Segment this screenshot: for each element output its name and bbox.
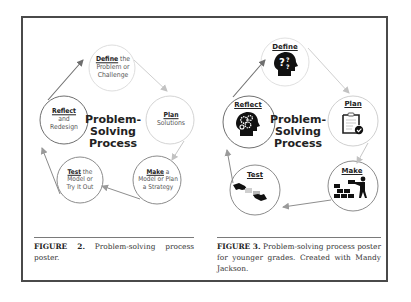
- fig2-stage-test: Test the Model or Try It Out: [67, 169, 94, 191]
- fig2-stage-define: Define the Problem or Challenge: [96, 56, 130, 79]
- fig3-caption: FIGURE 3. Problem-solving process poster…: [217, 241, 381, 274]
- svg-text:?: ?: [286, 63, 290, 70]
- fig2-reflect-verb: Reflect: [52, 107, 76, 115]
- fig3-arrow-define-to-plan: [308, 48, 349, 93]
- fig2-define-verb: Define: [96, 55, 118, 63]
- fig2-arrow-test-to-reflect: [42, 148, 60, 194]
- fig3-reflect-label: Reflect: [234, 101, 262, 109]
- fig3-make-label: Make: [342, 167, 363, 175]
- fig2-center-title: Problem- Solving Process: [85, 114, 141, 150]
- fig2-caption-divider: [34, 237, 194, 238]
- fig2-arrow-define-to-plan: [134, 60, 167, 91]
- fig3-arrow-plan-to-make: [357, 143, 368, 163]
- fig2-plan-verb: Plan: [163, 111, 178, 119]
- fig3-test-label: Test: [247, 171, 263, 179]
- fig2-arrow-reflect-to-define: [48, 60, 83, 100]
- svg-text:?: ?: [286, 56, 290, 63]
- fig3-center-title: Problem- Solving Process: [270, 114, 326, 150]
- fig2-stage-make: Make a Model or Plan a Strategy: [138, 169, 178, 191]
- fig2-caption-label: FIGURE 2.: [34, 242, 85, 251]
- fig2-stage-reflect: Reflect and Redesign: [50, 108, 78, 131]
- fig3-plan-label: Plan: [344, 100, 361, 108]
- fig3-arrow-make-to-test: [283, 200, 331, 207]
- fig2-caption: FIGURE 2. Problem-solving process poster…: [34, 241, 194, 263]
- svg-text:?: ?: [279, 57, 285, 68]
- fig3-arrow-reflect-to-define: [233, 60, 265, 97]
- fig3-caption-divider: [217, 237, 381, 238]
- fig3-caption-label: FIGURE 3.: [217, 242, 261, 251]
- fig3-arrow-test-to-reflect: [227, 150, 233, 183]
- fig2-stage-plan: Plan Solutions: [157, 112, 185, 128]
- fig3-define-label: Define: [272, 43, 297, 51]
